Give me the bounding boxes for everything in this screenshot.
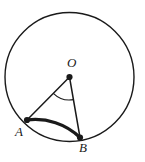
bold-arc-icon <box>27 119 80 137</box>
point-marker-a <box>24 117 30 123</box>
point-label-b: B <box>79 141 87 154</box>
point-label-a: A <box>15 125 23 138</box>
point-marker-o <box>66 74 72 80</box>
geometry-figure: O A B <box>0 0 145 162</box>
radius-segment-icon <box>27 77 70 120</box>
point-label-o: O <box>67 56 76 69</box>
angle-arc-icon <box>53 93 73 100</box>
